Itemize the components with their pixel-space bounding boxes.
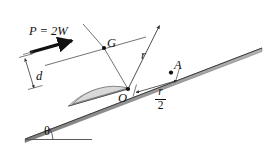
label-incline-angle-theta: θ (44, 125, 50, 138)
incline-surface (25, 48, 262, 143)
line-g-to-o (104, 48, 128, 89)
centroid-construction-line (83, 24, 104, 48)
fraction-numerator: r (156, 86, 164, 98)
double-headed-arrow-icon (25, 59, 34, 89)
point-marker-a (169, 71, 173, 75)
label-centroid-g: G (107, 37, 116, 50)
label-radius-r: r (141, 49, 146, 62)
label-dimension-d: d (36, 70, 42, 83)
label-force-p: P = 2W (29, 25, 68, 38)
point-marker-g (102, 46, 106, 50)
fraction-denominator: 2 (156, 100, 166, 112)
centroid-axis-line (45, 37, 146, 66)
label-point-o: O (118, 92, 127, 105)
label-half-radius: r 2 (155, 86, 166, 111)
label-point-a: A (174, 59, 182, 72)
engineering-figure: P = 2W d G r A O θ r 2 (0, 0, 267, 152)
force-arrow-p (30, 41, 72, 53)
